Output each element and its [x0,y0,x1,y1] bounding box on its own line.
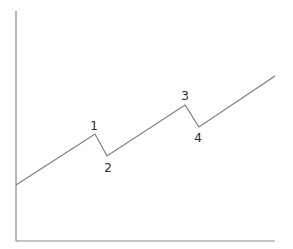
wave-label-3: 3 [181,89,189,103]
wave-diagram: 1 2 3 4 [0,0,293,249]
wave-label-2: 2 [104,161,112,175]
wave-line [16,76,275,185]
wave-label-4: 4 [194,131,202,145]
wave-label-1: 1 [90,119,98,133]
